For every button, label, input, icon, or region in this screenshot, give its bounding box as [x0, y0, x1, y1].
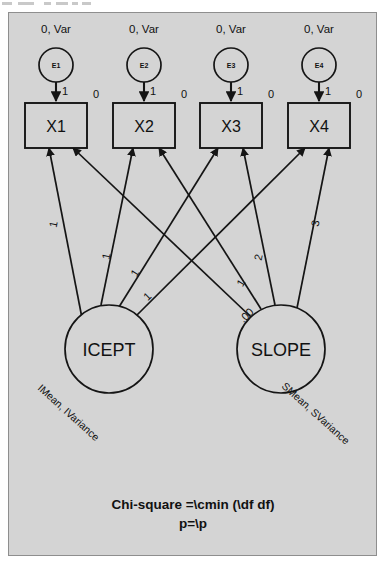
indicator-X1: X1 0	[25, 88, 99, 148]
loading-path-icept-x2	[101, 148, 133, 305]
error-moment-label-E1: 0, Var	[41, 23, 71, 35]
latent-factor-ICEPT: ICEPT IMean, IVariance	[36, 305, 153, 443]
loading-label-icept-x3: 1	[128, 267, 141, 279]
error-label-E2: E2	[140, 62, 149, 69]
diagram-page: 0, Var E1 1 0, Var E2 1 0, Var E3 1	[0, 0, 385, 564]
loading-label-icept-x1: 1	[47, 220, 60, 228]
error-label-E3: E3	[227, 62, 236, 69]
loading-path-slope-x4	[296, 148, 329, 313]
indicator-label-X2: X2	[134, 118, 154, 135]
loading-path-slope-x1	[73, 148, 252, 318]
loading-path-icept-x4	[137, 148, 305, 315]
indicator-intercept-X1: 0	[93, 88, 99, 100]
latent-factor-SLOPE: SLOPE SMean, SVariance	[237, 305, 352, 447]
indicator-X2: X2 0	[113, 88, 187, 148]
loading-label-icept-x2: 1	[100, 252, 113, 260]
model-drawing: 0, Var E1 1 0, Var E2 1 0, Var E3 1	[9, 13, 378, 557]
factor-moment-label-SLOPE: SMean, SVariance	[280, 380, 353, 447]
factor-label-ICEPT: ICEPT	[82, 340, 135, 360]
error-loading-E4: 1	[325, 85, 331, 97]
error-term-E3: 0, Var E3 1	[214, 23, 248, 101]
error-loading-E2: 1	[150, 85, 156, 97]
error-term-E4: 0, Var E4 1	[302, 23, 336, 101]
error-label-E1: E1	[52, 62, 61, 69]
diagram-canvas: 0, Var E1 1 0, Var E2 1 0, Var E3 1	[8, 12, 377, 556]
error-term-E2: 0, Var E2 1	[127, 23, 161, 101]
factor-moment-label-ICEPT: IMean, IVariance	[36, 382, 103, 444]
loading-path-icept-x1	[49, 148, 82, 318]
indicator-intercept-X2: 0	[181, 88, 187, 100]
fit-caption-line1: Chi-square =\cmin (\df df)	[111, 497, 274, 512]
indicator-intercept-X4: 0	[356, 88, 362, 100]
error-loading-E3: 1	[237, 85, 243, 97]
error-loading-E1: 1	[62, 85, 68, 97]
indicator-label-X1: X1	[46, 118, 66, 135]
indicator-label-X3: X3	[221, 118, 241, 135]
factor-label-SLOPE: SLOPE	[251, 340, 311, 360]
loading-label-slope-x4: 3	[309, 219, 322, 227]
indicator-X4: X4 0	[288, 88, 362, 148]
error-moment-label-E4: 0, Var	[304, 23, 334, 35]
error-moment-label-E2: 0, Var	[129, 23, 159, 35]
scan-artifact	[0, 0, 385, 9]
error-term-E1: 0, Var E1 1	[39, 23, 73, 101]
indicator-X3: X3 0	[200, 88, 274, 148]
indicator-label-X4: X4	[309, 118, 329, 135]
error-label-E4: E4	[315, 62, 324, 69]
fit-caption-line2: p=\p	[179, 516, 207, 531]
loading-label-slope-x3: 2	[252, 253, 265, 261]
indicator-intercept-X3: 0	[268, 88, 274, 100]
error-moment-label-E3: 0, Var	[216, 23, 246, 35]
loading-label-slope-x2: 1	[234, 277, 247, 289]
loading-path-slope-x3	[243, 148, 275, 305]
